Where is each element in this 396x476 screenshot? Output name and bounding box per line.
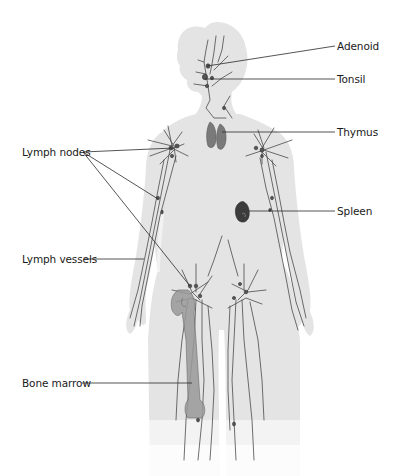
label-thymus: Thymus — [337, 126, 378, 138]
body-illustration — [0, 0, 396, 476]
lymphatic-system-diagram: Adenoid Tonsil Thymus Lymph nodes Spleen… — [0, 0, 396, 476]
spleen-organ — [235, 202, 249, 222]
label-spleen: Spleen — [337, 205, 372, 217]
label-bone-marrow: Bone marrow — [22, 377, 91, 389]
label-lymph-vessels: Lymph vessels — [22, 253, 97, 265]
label-lymph-nodes: Lymph nodes — [22, 146, 91, 158]
label-tonsil: Tonsil — [337, 73, 365, 85]
label-adenoid: Adenoid — [337, 40, 379, 52]
